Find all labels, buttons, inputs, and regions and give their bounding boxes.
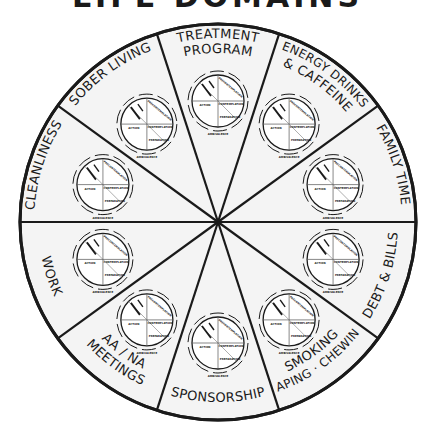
svg-text:AMBIVALENCE: AMBIVALENCE (323, 291, 344, 294)
svg-text:PREPARATION: PREPARATION (335, 274, 355, 277)
svg-text:ACTION: ACTION (128, 127, 139, 130)
svg-text:ACTION: ACTION (199, 346, 210, 349)
svg-text:AMBIVALENCE: AMBIVALENCE (323, 217, 344, 220)
svg-text:AMBIVALENCE: AMBIVALENCE (137, 156, 158, 159)
svg-text:ACTION: ACTION (199, 104, 210, 107)
svg-text:CONTEMPLATION: CONTEMPLATION (334, 187, 359, 190)
svg-text:CONTEMPLATION: CONTEMPLATION (219, 103, 244, 106)
svg-text:AMBIVALENCE: AMBIVALENCE (93, 291, 114, 294)
svg-text:PREPARATION: PREPARATION (291, 139, 311, 142)
svg-text:ACTION: ACTION (271, 127, 282, 130)
svg-text:PREPARATION: PREPARATION (335, 200, 355, 203)
svg-text:CONTEMPLATION: CONTEMPLATION (103, 187, 128, 190)
svg-text:PREPARATION: PREPARATION (220, 358, 240, 361)
svg-text:AMBIVALENCE: AMBIVALENCE (93, 217, 114, 220)
svg-text:ACTION: ACTION (315, 262, 326, 265)
svg-text:CONTEMPLATION: CONTEMPLATION (147, 126, 172, 129)
svg-text:ACTION: ACTION (128, 323, 139, 326)
svg-text:CONTEMPLATION: CONTEMPLATION (334, 261, 359, 264)
svg-text:PREPARATION: PREPARATION (105, 274, 125, 277)
life-domains-wheel: TREATMENTPROGRAMACTIONCONTEMPLATIONPREPA… (0, 0, 435, 448)
svg-text:CONTEMPLATION: CONTEMPLATION (290, 322, 315, 325)
svg-text:ACTION: ACTION (271, 323, 282, 326)
svg-text:ACTION: ACTION (84, 188, 95, 191)
svg-text:PREPARATION: PREPARATION (149, 139, 169, 142)
svg-text:ACTION: ACTION (315, 188, 326, 191)
svg-text:AMBIVALENCE: AMBIVALENCE (208, 133, 229, 136)
svg-text:PREPARATION: PREPARATION (105, 200, 125, 203)
svg-text:CONTEMPLATION: CONTEMPLATION (103, 261, 128, 264)
svg-text:AMBIVALENCE: AMBIVALENCE (279, 156, 300, 159)
svg-text:AMBIVALENCE: AMBIVALENCE (137, 352, 158, 355)
svg-text:AMBIVALENCE: AMBIVALENCE (208, 375, 229, 378)
svg-text:CONTEMPLATION: CONTEMPLATION (290, 126, 315, 129)
svg-text:ACTION: ACTION (84, 262, 95, 265)
svg-text:PREPARATION: PREPARATION (149, 335, 169, 338)
svg-text:AMBIVALENCE: AMBIVALENCE (279, 352, 300, 355)
svg-text:PREPARATION: PREPARATION (220, 116, 240, 119)
svg-text:CONTEMPLATION: CONTEMPLATION (219, 345, 244, 348)
svg-text:CONTEMPLATION: CONTEMPLATION (147, 322, 172, 325)
svg-text:PREPARATION: PREPARATION (291, 335, 311, 338)
